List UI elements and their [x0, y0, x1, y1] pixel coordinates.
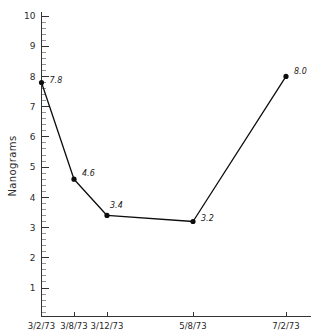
x-axis-tick-labels: 3/2/733/8/733/12/735/8/737/2/73: [28, 321, 300, 331]
axes-group: [42, 12, 312, 317]
y-axis-title: Nanograms: [7, 135, 18, 196]
x-tick-label: 7/2/73: [272, 321, 299, 331]
data-point-marker[interactable]: [283, 74, 288, 79]
data-point-markers: [39, 74, 289, 224]
x-tick-label: 5/8/73: [179, 321, 206, 331]
y-axis-tick-labels: 12345678910: [24, 11, 36, 293]
y-tick-label: 9: [30, 41, 36, 51]
series-polyline: [42, 76, 287, 221]
y-axis-ticks: [42, 16, 49, 312]
data-point-marker[interactable]: [39, 80, 44, 85]
y-tick-label: 10: [24, 11, 36, 21]
data-series-line: [42, 76, 287, 221]
y-tick-label: 8: [30, 72, 36, 82]
line-chart-plot: 12345678910 3/2/733/8/733/12/735/8/737/2…: [0, 0, 317, 336]
data-point-marker[interactable]: [104, 213, 109, 218]
y-tick-label: 6: [30, 132, 36, 142]
x-axis-ticks: [42, 312, 287, 317]
y-tick-label: 4: [30, 193, 36, 203]
y-tick-label: 1: [30, 283, 36, 293]
y-axis-title-text: Nanograms: [7, 135, 18, 196]
data-point-label: 3.4: [110, 201, 123, 210]
data-point-label: 7.8: [50, 76, 63, 85]
x-tick-label: 3/8/73: [60, 321, 87, 331]
x-tick-label: 3/2/73: [28, 321, 55, 331]
data-point-label: 3.2: [201, 214, 214, 223]
y-tick-label: 2: [30, 253, 36, 263]
data-point-label: 8.0: [294, 67, 307, 76]
chart-container: 12345678910 3/2/733/8/733/12/735/8/737/2…: [0, 0, 317, 336]
data-point-marker[interactable]: [71, 177, 76, 182]
y-tick-label: 3: [30, 223, 36, 233]
data-point-marker[interactable]: [190, 219, 195, 224]
y-tick-label: 7: [30, 102, 36, 112]
y-tick-label: 5: [30, 162, 36, 172]
x-tick-label: 3/12/73: [91, 321, 124, 331]
data-point-label: 4.6: [82, 169, 95, 178]
data-point-labels: 7.84.63.43.28.0: [50, 67, 307, 222]
